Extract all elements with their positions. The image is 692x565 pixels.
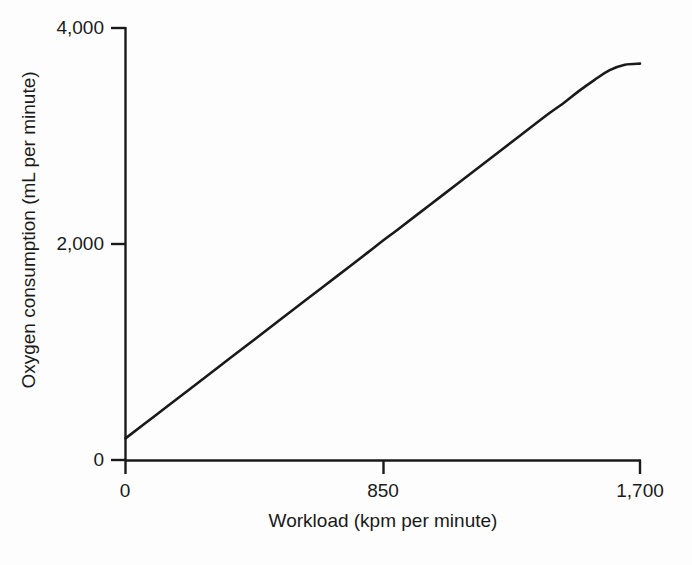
chart-figure: 4,000 2,000 0 0 850 1,700 Oxygen consump…: [0, 0, 692, 565]
x-tick-label-1700: 1,700: [590, 481, 690, 500]
x-tick-label-850: 850: [343, 481, 423, 500]
y-axis-title: Oxygen consumption (mL per minute): [12, 0, 46, 460]
data-series-line: [126, 64, 641, 439]
x-axis-title: Workload (kpm per minute): [125, 509, 641, 533]
x-tick-label-0: 0: [85, 481, 165, 500]
